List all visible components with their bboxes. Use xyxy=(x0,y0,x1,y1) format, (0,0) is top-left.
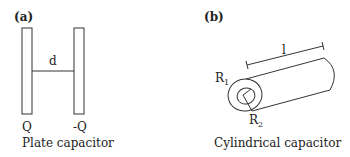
distance-label: d xyxy=(49,55,57,67)
diagram-canvas xyxy=(0,0,350,157)
panel-b-caption: Cylindrical capacitor xyxy=(214,137,341,149)
panel-b-tag: (b) xyxy=(204,11,224,23)
inner-radius-label: R2 xyxy=(249,114,263,129)
panel-a-caption: Plate capacitor xyxy=(22,137,114,149)
panel-a-tag: (a) xyxy=(14,11,33,23)
length-label: l xyxy=(282,44,286,56)
left-charge-label: Q xyxy=(22,121,32,133)
right-charge-label: -Q xyxy=(73,121,87,133)
left-plate xyxy=(22,28,32,114)
cylinder xyxy=(224,42,334,115)
outer-radius-label: R1 xyxy=(215,72,229,87)
right-plate xyxy=(74,28,84,114)
